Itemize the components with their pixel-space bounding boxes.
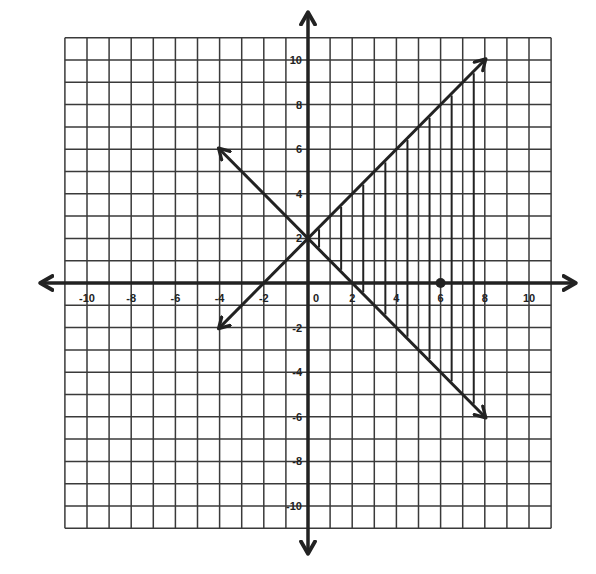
y-tick-label: 8 xyxy=(296,99,302,111)
y-tick-label: -2 xyxy=(292,322,302,334)
y-tick-label: 2 xyxy=(296,232,302,244)
y-tick-label: -10 xyxy=(286,500,302,512)
x-tick-label: -6 xyxy=(171,292,181,304)
point-marker xyxy=(436,278,446,288)
x-tick-label: 4 xyxy=(393,292,400,304)
x-tick-label: 2 xyxy=(349,292,355,304)
y-tick-label: -6 xyxy=(292,411,302,423)
x-tick-label: 10 xyxy=(523,292,535,304)
x-tick-label: -10 xyxy=(79,292,95,304)
y-tick-label: 4 xyxy=(296,188,303,200)
y-tick-label: 10 xyxy=(290,54,302,66)
y-tick-label: 6 xyxy=(296,143,302,155)
x-tick-label: 8 xyxy=(482,292,488,304)
x-tick-label: -2 xyxy=(259,292,269,304)
axes xyxy=(42,14,574,552)
y-tick-label: -8 xyxy=(292,455,302,467)
x-tick-label: 0 xyxy=(313,292,319,304)
plotted-points xyxy=(436,278,446,288)
x-tick-label: -4 xyxy=(215,292,226,304)
coordinate-plane: -10-8-6-4-20246810108642-2-4-6-8-10 xyxy=(0,0,596,574)
y-tick-label: -4 xyxy=(292,366,303,378)
x-tick-label: -8 xyxy=(126,292,136,304)
x-tick-label: 6 xyxy=(438,292,444,304)
